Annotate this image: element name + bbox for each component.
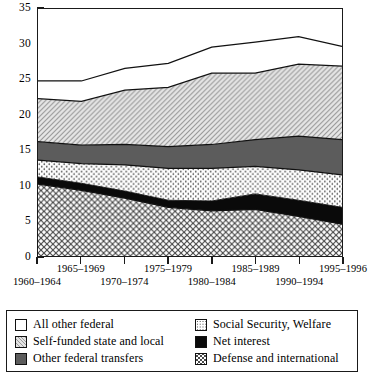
- x-tick-label: 1990–1994: [265, 276, 333, 288]
- legend-swatch-icon: [15, 319, 27, 331]
- x-axis-labels: 1960–19641965–19691970–19741975–19791980…: [0, 262, 370, 302]
- y-tick-label: 20: [5, 109, 31, 119]
- legend-column-right: Social Security, WelfareNet interestDefe…: [195, 316, 360, 367]
- legend-column-left: All other federalSelf-funded state and l…: [15, 316, 190, 367]
- x-tick-label: 1980–1984: [178, 276, 246, 288]
- y-tick-label: 10: [5, 180, 31, 190]
- legend-label: All other federal: [33, 318, 114, 331]
- x-tick-label: 1965–1969: [47, 263, 115, 275]
- y-tick-label: 35: [5, 2, 31, 12]
- legend-label: Defense and international: [213, 352, 339, 365]
- x-tick-label: 1995–1996: [309, 263, 370, 275]
- legend-swatch-icon: [195, 319, 207, 331]
- y-tick-label: 5: [5, 215, 31, 225]
- x-tick-label: 1975–1979: [134, 263, 202, 275]
- legend-label: Other federal transfers: [33, 352, 143, 365]
- legend-swatch-icon: [15, 336, 27, 348]
- legend-label: Self-funded state and local: [33, 335, 164, 348]
- plot-svg: [38, 9, 342, 256]
- x-tick-label: 1985–1989: [222, 263, 290, 275]
- legend-swatch-icon: [195, 353, 207, 365]
- plot-area: [37, 8, 343, 257]
- legend-label: Net interest: [213, 335, 270, 348]
- legend-item: All other federal: [15, 316, 190, 333]
- y-tick-label: 15: [5, 144, 31, 154]
- legend-item: Other federal transfers: [15, 350, 190, 367]
- x-tick-label: 1960–1964: [3, 276, 71, 288]
- stacked-area-chart: 05101520253035: [0, 0, 370, 305]
- legend-item: Defense and international: [195, 350, 360, 367]
- legend-swatch-icon: [15, 353, 27, 365]
- legend-item: Social Security, Welfare: [195, 316, 360, 333]
- legend-label: Social Security, Welfare: [213, 318, 331, 331]
- legend-swatch-icon: [195, 336, 207, 348]
- x-tick-label: 1970–1974: [90, 276, 158, 288]
- legend-item: Self-funded state and local: [15, 333, 190, 350]
- y-tick-label: 25: [5, 73, 31, 83]
- chart-legend: All other federalSelf-funded state and l…: [6, 310, 358, 372]
- legend-item: Net interest: [195, 333, 360, 350]
- y-tick-label: 30: [5, 38, 31, 48]
